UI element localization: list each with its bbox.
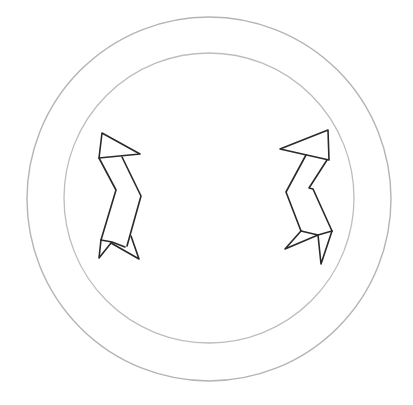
right-figure [280,130,332,264]
drawing-canvas [0,0,413,405]
inner-ring [64,53,354,343]
left-figure-head [99,133,140,158]
outer-ring [27,17,391,381]
left-figure-body-right [122,157,141,246]
right-figure-head [280,130,329,160]
left-figure-body-left [99,158,116,240]
left-figure [99,133,141,259]
right-figure-waist [301,231,332,235]
right-figure-foot-right [318,231,332,264]
right-figure-body-left [286,155,306,231]
right-figure-body-right [309,160,332,231]
left-figure-foot-left [99,240,111,258]
